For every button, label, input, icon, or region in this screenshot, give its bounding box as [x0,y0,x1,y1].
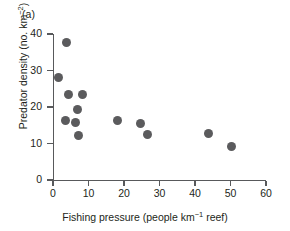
data-point-0 [62,38,71,47]
data-point-3 [78,90,87,99]
y-axis-line [53,34,54,181]
x-tick-20 [123,181,124,186]
figure-panel-a: (a) Predator density (no. km−2) Fishing … [0,0,290,231]
x-tick-50 [230,181,231,186]
data-point-7 [74,131,83,140]
data-point-11 [204,129,213,138]
x-tick-label-50: 50 [216,187,246,199]
x-tick-label-0: 0 [38,187,68,199]
data-point-10 [143,130,152,139]
data-point-6 [71,118,80,127]
y-tick-label-40: 40 [0,27,42,39]
x-tick-label-30: 30 [145,187,175,199]
y-tick-label-10: 10 [0,137,42,149]
x-tick-60 [265,181,266,186]
x-tick-40 [194,181,195,186]
y-tick-label-0: 0 [0,173,42,185]
x-tick-label-20: 20 [109,187,139,199]
data-point-1 [54,73,63,82]
y-tick-label-30: 30 [0,64,42,76]
data-point-9 [136,119,145,128]
y-tick-label-20: 20 [0,100,42,112]
plot-area: 010203040 0102030405060 [0,0,290,231]
x-tick-label-40: 40 [180,187,210,199]
data-point-5 [61,116,70,125]
x-tick-0 [52,181,53,186]
y-tick-10 [47,143,53,144]
y-tick-30 [47,70,53,71]
data-point-4 [73,105,82,114]
data-point-12 [227,142,236,151]
data-point-2 [64,90,73,99]
x-tick-10 [88,181,89,186]
x-tick-label-10: 10 [74,187,104,199]
y-tick-20 [47,106,53,107]
data-point-8 [113,116,122,125]
x-tick-label-60: 60 [251,187,281,199]
y-tick-40 [47,33,53,34]
x-tick-30 [159,181,160,186]
